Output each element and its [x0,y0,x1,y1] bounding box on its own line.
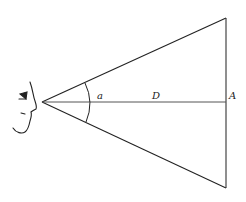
viewing-angle-diagram: a D A [0,0,246,202]
lower-sight-line [42,102,226,188]
upper-sight-line [42,18,226,102]
angle-label: a [97,90,103,101]
distance-label: D [151,90,160,101]
object-label: A [228,90,236,101]
face-profile-icon [13,82,36,133]
